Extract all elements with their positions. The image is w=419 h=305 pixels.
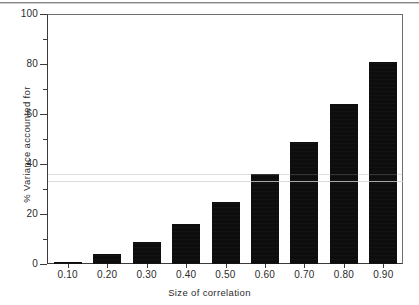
x-tick-0.90 bbox=[383, 264, 384, 268]
y-tick-100 bbox=[40, 14, 47, 15]
bar-texture bbox=[93, 254, 121, 264]
x-tick-0.60 bbox=[265, 264, 266, 268]
y-tick-50 bbox=[43, 139, 47, 140]
bar-0.40 bbox=[172, 224, 200, 264]
y-tick-60 bbox=[40, 114, 47, 115]
x-tick-0.10 bbox=[68, 264, 69, 268]
x-axis-title: Size of correlation bbox=[0, 287, 419, 298]
y-tick-80 bbox=[40, 64, 47, 65]
bar-0.60 bbox=[251, 174, 279, 264]
bar-texture bbox=[133, 242, 161, 265]
bar-texture bbox=[330, 104, 358, 264]
bar-texture bbox=[251, 174, 279, 264]
y-tick-label-100: 100 bbox=[21, 9, 38, 19]
y-tick-20 bbox=[40, 214, 47, 215]
bar-0.20 bbox=[93, 254, 121, 264]
x-tick-0.30 bbox=[147, 264, 148, 268]
x-tick-0.40 bbox=[186, 264, 187, 268]
x-tick-label-0.20: 0.20 bbox=[87, 269, 127, 280]
y-tick-40 bbox=[40, 164, 47, 165]
x-tick-label-0.50: 0.50 bbox=[206, 269, 246, 280]
x-tick-label-0.60: 0.60 bbox=[245, 269, 285, 280]
x-tick-label-0.70: 0.70 bbox=[284, 269, 324, 280]
x-tick-0.20 bbox=[107, 264, 108, 268]
y-tick-label-0: 0 bbox=[32, 259, 38, 269]
plot-area bbox=[48, 14, 403, 264]
y-axis-title: % Variance accounted for bbox=[21, 55, 32, 235]
x-tick-0.80 bbox=[344, 264, 345, 268]
bar-texture bbox=[212, 202, 240, 265]
y-tick-30 bbox=[43, 189, 47, 190]
x-tick-label-0.40: 0.40 bbox=[166, 269, 206, 280]
bar-texture bbox=[290, 142, 318, 265]
y-tick-0 bbox=[40, 264, 47, 265]
bar-0.50 bbox=[212, 202, 240, 265]
x-tick-label-0.80: 0.80 bbox=[324, 269, 364, 280]
x-tick-label-0.10: 0.10 bbox=[48, 269, 88, 280]
bar-0.90 bbox=[369, 62, 397, 265]
bar-0.70 bbox=[290, 142, 318, 265]
bar-texture bbox=[369, 62, 397, 265]
x-tick-label-0.90: 0.90 bbox=[363, 269, 403, 280]
x-tick-0.70 bbox=[304, 264, 305, 268]
bar-0.80 bbox=[330, 104, 358, 264]
y-tick-70 bbox=[43, 89, 47, 90]
x-tick-0.50 bbox=[226, 264, 227, 268]
bar-chart-figure: 100 80 60 40 20 0 % Variance accounted f… bbox=[0, 0, 419, 305]
y-tick-90 bbox=[43, 39, 47, 40]
y-tick-10 bbox=[43, 239, 47, 240]
bar-0.30 bbox=[133, 242, 161, 265]
x-tick-label-0.30: 0.30 bbox=[127, 269, 167, 280]
bar-texture bbox=[172, 224, 200, 264]
